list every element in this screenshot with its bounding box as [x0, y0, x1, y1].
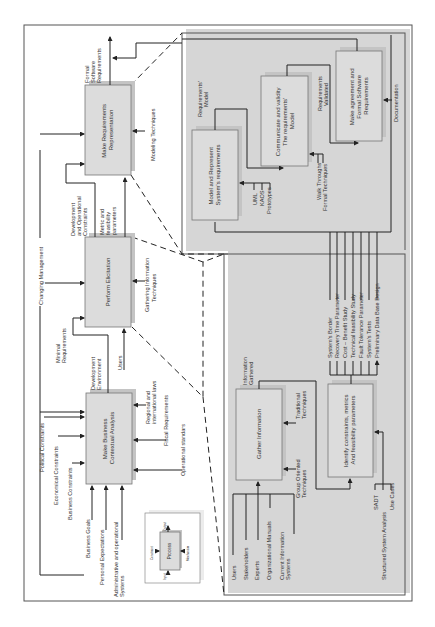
svg-text:System's Tests: System's Tests: [366, 321, 372, 358]
svg-text:Make Requirements Repres: Make Requirements Representation: [101, 102, 114, 157]
svg-text:SADT: SADT: [373, 494, 379, 510]
svg-text:Process: Process: [167, 542, 172, 559]
svg-text:Identify constraints, metrics: Identify constraints, metrics And feasib…: [343, 393, 356, 467]
svg-text:Prototypes: Prototypes: [266, 187, 272, 214]
svg-text:Stakeholders: Stakeholders: [243, 547, 249, 580]
svg-text:Economical Constraints: Economical Constraints: [53, 446, 59, 505]
svg-text:Documentation: Documentation: [393, 84, 399, 122]
svg-text:Preliminary Data Base Design: Preliminary Data Base Design: [374, 283, 380, 358]
legend: Process Input Output Constraint Mechanis…: [145, 510, 204, 583]
svg-text:Business Goals: Business Goals: [85, 519, 91, 558]
svg-text:Perform Elicitation: Perform Elicitation: [105, 258, 111, 307]
svg-text:Changing Management: Changing Management: [38, 246, 44, 305]
svg-text:Technical feasibility Study: Technical feasibility Study: [350, 294, 356, 358]
detail-box-communicate[interactable]: Communicate and validity The requirement…: [261, 72, 312, 166]
svg-text:Users: Users: [117, 355, 123, 370]
svg-text:Constraint: Constraint: [150, 546, 154, 560]
svg-text:KAOS: KAOS: [259, 190, 265, 206]
detail-box-identify[interactable]: Identify constraints, metrics And feasib…: [328, 380, 377, 477]
svg-text:Personal Expectations: Personal Expectations: [99, 529, 105, 585]
svg-text:Constraints: Constraints: [82, 208, 88, 236]
svg-text:Fiscal Requirements: Fiscal Requirements: [163, 395, 169, 446]
process-box-elicitation[interactable]: Perform Elicitation: [85, 233, 135, 327]
svg-text:Systems: Systems: [285, 558, 291, 580]
svg-text:parameters: parameters: [111, 207, 117, 235]
svg-text:Model and Represent Syst: Model and Represent System's requirement…: [208, 145, 221, 206]
svg-text:international laws: international laws: [151, 381, 157, 424]
svg-text:Gathering Information: Gathering Information: [144, 258, 150, 312]
process-box-business[interactable]: Make Business Contextual Analysis: [86, 389, 136, 484]
svg-text:Experts: Experts: [254, 561, 260, 580]
svg-text:Make Business Contextual: Make Business Contextual Analysis: [102, 412, 115, 464]
svg-text:Fault Tolerance Parameter: Fault Tolerance Parameter: [358, 292, 364, 358]
svg-text:Input: Input: [163, 573, 167, 580]
svg-text:Operational standars: Operational standars: [180, 424, 186, 476]
svg-text:Output: Output: [163, 522, 167, 531]
svg-text:Structured System Analysis: Structured System Analysis: [381, 512, 387, 580]
svg-text:Techniques: Techniques: [151, 273, 157, 302]
svg-text:Gather Information: Gather Information: [256, 409, 262, 459]
svg-text:Systems: Systems: [119, 575, 125, 597]
svg-text:Requirements: Requirements: [96, 48, 102, 83]
detail-box-model[interactable]: Model and Represent System's requirement…: [192, 126, 242, 220]
zoom-line: [131, 33, 182, 85]
svg-text:Formal Techniques: Formal Techniques: [322, 164, 328, 211]
svg-text:Mechanism: Mechanism: [186, 545, 190, 561]
detail-box-gather[interactable]: Gather Information: [236, 385, 286, 480]
svg-text:Organizational Manuals: Organizational Manuals: [266, 521, 272, 580]
detail-box-agreement[interactable]: Make agreement and Formal Software Requi…: [336, 47, 386, 141]
svg-text:Business Constraints: Business Constraints: [67, 467, 73, 520]
process-box-representation[interactable]: Make Requirements Representation: [85, 81, 135, 175]
svg-text:System's Border: System's Border: [327, 317, 333, 358]
svg-text:Techniques: Techniques: [301, 469, 307, 498]
diagram-canvas: Make Requirements Representation Perform…: [0, 0, 435, 627]
idef0-diagram: Make Requirements Representation Perform…: [0, 0, 435, 627]
svg-text:Use Cases: Use Cases: [389, 482, 395, 510]
svg-text:Modeling Techniques: Modeling Techniques: [150, 108, 156, 161]
svg-text:Gathered: Gathered: [248, 362, 254, 385]
svg-text:Requirements: Requirements: [61, 328, 67, 363]
svg-text:Cost – Benefit Study: Cost – Benefit Study: [342, 307, 348, 358]
svg-text:Model: Model: [203, 92, 209, 107]
svg-text:Validated: Validated: [323, 83, 329, 106]
svg-text:Recovery Time Parameter: Recovery Time Parameter: [334, 293, 340, 358]
svg-text:Environment: Environment: [96, 358, 102, 390]
svg-text:UML: UML: [252, 193, 258, 205]
svg-text:Techniques: Techniques: [301, 390, 307, 419]
svg-text:Users: Users: [231, 565, 237, 580]
